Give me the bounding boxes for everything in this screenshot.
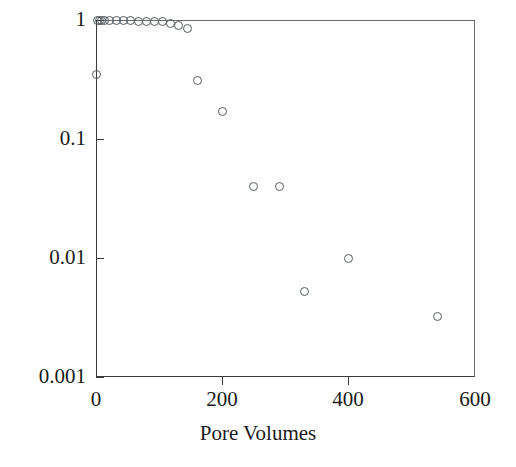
plot-area <box>96 20 475 377</box>
y-tick-0.001 <box>96 377 104 378</box>
y-tick-0.1 <box>96 139 104 140</box>
x-axis-tick-label: 600 <box>445 389 505 410</box>
y-axis-tick-label: 0.1 <box>8 128 86 149</box>
x-axis-tick-label: 400 <box>318 389 378 410</box>
y-axis-tick-label: 0.001 <box>2 366 86 387</box>
y-axis-tick-label: 1 <box>8 9 86 30</box>
x-axis-tick-label: 0 <box>66 389 126 410</box>
x-tick-400 <box>348 377 349 385</box>
y-tick-0.01 <box>96 258 104 259</box>
data-point <box>174 21 183 30</box>
x-axis-tick-label: 200 <box>192 389 252 410</box>
data-point <box>92 70 101 79</box>
x-axis-title: Pore Volumes <box>0 421 516 445</box>
data-point <box>433 312 442 321</box>
x-tick-200 <box>222 377 223 385</box>
data-point <box>218 107 227 116</box>
data-point <box>344 254 353 263</box>
data-point <box>183 24 192 33</box>
data-point <box>275 182 284 191</box>
data-point <box>193 76 202 85</box>
scatter-plot-figure: 1 0.1 0.01 0.001 0 200 400 600 Pore Volu… <box>0 0 516 467</box>
y-axis-tick-label: 0.01 <box>8 247 86 268</box>
